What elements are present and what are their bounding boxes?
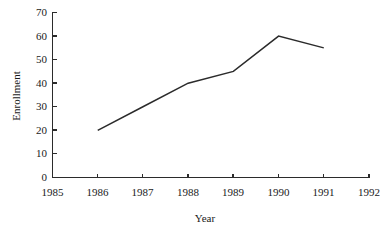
y-tick-label-40: 40 (36, 77, 48, 89)
x-tick-label-1989: 1989 (222, 186, 245, 198)
y-axis-title: Enrollment (10, 71, 22, 121)
chart-background (0, 0, 386, 240)
y-tick-label-0: 0 (42, 171, 48, 183)
x-tick-label-1988: 1988 (177, 186, 200, 198)
x-tick-label-1985: 1985 (42, 186, 65, 198)
x-tick-label-1990: 1990 (268, 186, 291, 198)
x-tick-label-1992: 1992 (358, 186, 380, 198)
x-axis-title: Year (195, 212, 216, 224)
x-tick-label-1986: 1986 (87, 186, 110, 198)
chart-container: 70 60 50 40 30 20 10 0 1985 1986 1987 19… (0, 0, 386, 240)
x-tick-label-1987: 1987 (132, 186, 155, 198)
x-tick-label-1991: 1991 (313, 186, 335, 198)
y-tick-label-30: 30 (36, 100, 48, 112)
y-tick-label-70: 70 (36, 6, 48, 18)
y-tick-label-60: 60 (36, 30, 48, 42)
y-tick-label-50: 50 (36, 53, 48, 65)
y-tick-label-10: 10 (36, 147, 48, 159)
y-tick-label-20: 20 (36, 124, 48, 136)
enrollment-line-chart: 70 60 50 40 30 20 10 0 1985 1986 1987 19… (0, 0, 386, 240)
